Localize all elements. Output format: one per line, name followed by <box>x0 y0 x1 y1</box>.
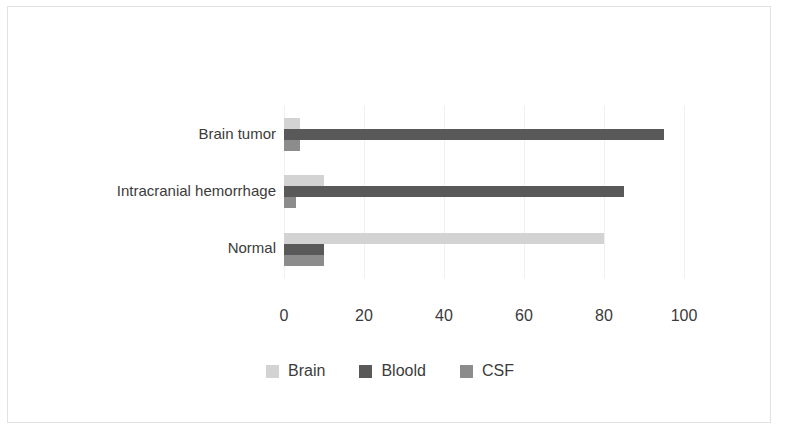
x-axis-tick-label: 20 <box>355 307 373 325</box>
bar-group <box>284 106 684 163</box>
bar-group <box>284 221 684 278</box>
legend-item[interactable]: CSF <box>460 362 514 380</box>
legend-swatch-icon <box>266 365 279 378</box>
x-axis-tick-label: 80 <box>595 307 613 325</box>
bar <box>284 175 324 186</box>
x-axis-tick-label: 0 <box>280 307 289 325</box>
x-axis-tick-label: 100 <box>671 307 698 325</box>
legend-label: CSF <box>482 362 514 380</box>
category-axis: Brain tumorIntracranial hemorrhageNormal <box>14 106 276 278</box>
category-label: Intracranial hemorrhage <box>16 182 276 199</box>
legend-item[interactable]: Bloold <box>359 362 425 380</box>
legend-label: Bloold <box>381 362 425 380</box>
legend-label: Brain <box>288 362 325 380</box>
legend-item[interactable]: Brain <box>266 362 325 380</box>
bar <box>284 118 300 129</box>
bar <box>284 244 324 255</box>
legend-swatch-icon <box>359 365 372 378</box>
chart-frame: Brain tumorIntracranial hemorrhageNormal… <box>7 6 771 423</box>
bar-group <box>284 163 684 220</box>
legend-swatch-icon <box>460 365 473 378</box>
bar <box>284 186 624 197</box>
x-axis-tick-label: 60 <box>515 307 533 325</box>
category-label: Brain tumor <box>16 125 276 142</box>
category-label: Normal <box>16 239 276 256</box>
gridline-100 <box>684 106 685 278</box>
bar <box>284 233 604 244</box>
bar <box>284 129 664 140</box>
bar <box>284 255 324 266</box>
bar <box>284 140 300 151</box>
plot-area <box>284 106 684 278</box>
chart-legend: BrainBlooldCSF <box>8 362 772 380</box>
value-axis: 020406080100 <box>284 307 684 333</box>
x-axis-tick-label: 40 <box>435 307 453 325</box>
bar <box>284 197 296 208</box>
